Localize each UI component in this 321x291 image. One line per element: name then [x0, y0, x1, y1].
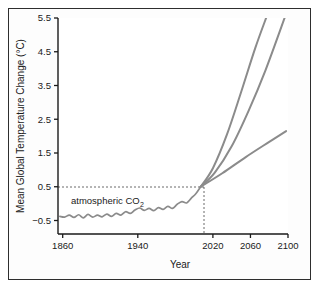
- figure-container: −0.50.51.52.53.54.55.5 18601940202020602…: [0, 0, 321, 291]
- y-axis-title: Mean Global Temperature Change (°C): [15, 39, 26, 213]
- x-tick-label: 2020: [202, 240, 223, 251]
- y-tick-label: 5.5: [38, 12, 51, 23]
- y-tick-label: 0.5: [38, 181, 51, 192]
- x-axis-title: Year: [170, 259, 191, 270]
- y-tick-label: 2.5: [38, 114, 51, 125]
- y-tick-label: −0.5: [32, 215, 51, 226]
- x-tick-label: 2060: [240, 240, 261, 251]
- annotation-subscript: 2: [140, 201, 144, 208]
- y-tick-label: 1.5: [38, 147, 51, 158]
- x-tick-label: 1940: [127, 240, 148, 251]
- y-tick-label: 4.5: [38, 46, 51, 57]
- annotation-label: atmospheric CO: [71, 195, 140, 206]
- x-tick-label: 1860: [52, 240, 73, 251]
- y-tick-label: 3.5: [38, 80, 51, 91]
- x-axis-tick-labels: 18601940202020602100: [52, 240, 298, 251]
- temperature-projection-chart: −0.50.51.52.53.54.55.5 18601940202020602…: [0, 0, 321, 291]
- y-axis-tick-labels: −0.50.51.52.53.54.55.5: [32, 12, 51, 226]
- x-tick-label: 2100: [277, 240, 298, 251]
